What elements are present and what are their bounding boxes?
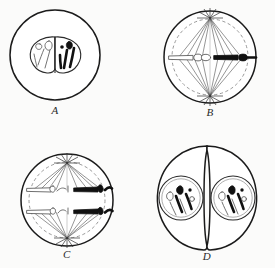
chromosome-light-a-1 [36,44,42,50]
chromosome-light-a-2 [45,41,52,50]
chromosome-dark-c-5 [98,207,103,214]
cell-division-figure: A B C D [0,0,275,268]
chromosome-light-c-2 [50,186,55,192]
chromosome-light-c-5 [27,210,51,214]
chromosome-dark-b-2 [239,54,248,61]
panel-a-prophase [10,10,100,100]
chromosome-light-c-6 [50,208,55,214]
chromosome-light-b-2 [194,54,202,61]
chromosome-light-d-l4 [190,197,195,202]
figure-canvas [0,0,275,268]
chromosome-dark-d-l4 [188,188,191,191]
chromosome-dark-a-5 [60,55,61,68]
chromosome-dark-a-2 [66,41,72,49]
chromosome-light-d-r1 [219,192,226,200]
nuclear-envelope-left-d [159,176,203,220]
nuclear-envelope-right-d [211,176,255,220]
panel-c-anaphase [21,153,113,248]
chromosome-dark-a-1 [60,45,64,49]
chromosome-dark-c-2 [98,185,103,192]
chromosome-dark-c-1 [74,187,98,192]
panel-label-c: C [57,248,77,260]
panel-label-d: D [197,250,217,262]
chromosome-dark-d-r1 [229,186,236,194]
panel-label-a: A [45,104,65,116]
chromosome-light-d-r4 [242,197,247,202]
chromosome-dark-b-1 [214,55,238,60]
panel-label-b: B [200,106,220,118]
chromosome-light-b-3 [201,54,210,60]
nucleus-right-d [211,176,255,220]
chromosome-dark-c-4 [74,209,98,214]
chromosome-dark-d-r4 [240,188,243,191]
chromosome-light-c-1 [27,188,51,192]
chromosome-dark-d-l1 [177,186,184,194]
nucleus-left-d [159,176,203,220]
chromosome-light-d-l1 [167,192,174,200]
chromosome-light-b-1 [169,55,193,60]
